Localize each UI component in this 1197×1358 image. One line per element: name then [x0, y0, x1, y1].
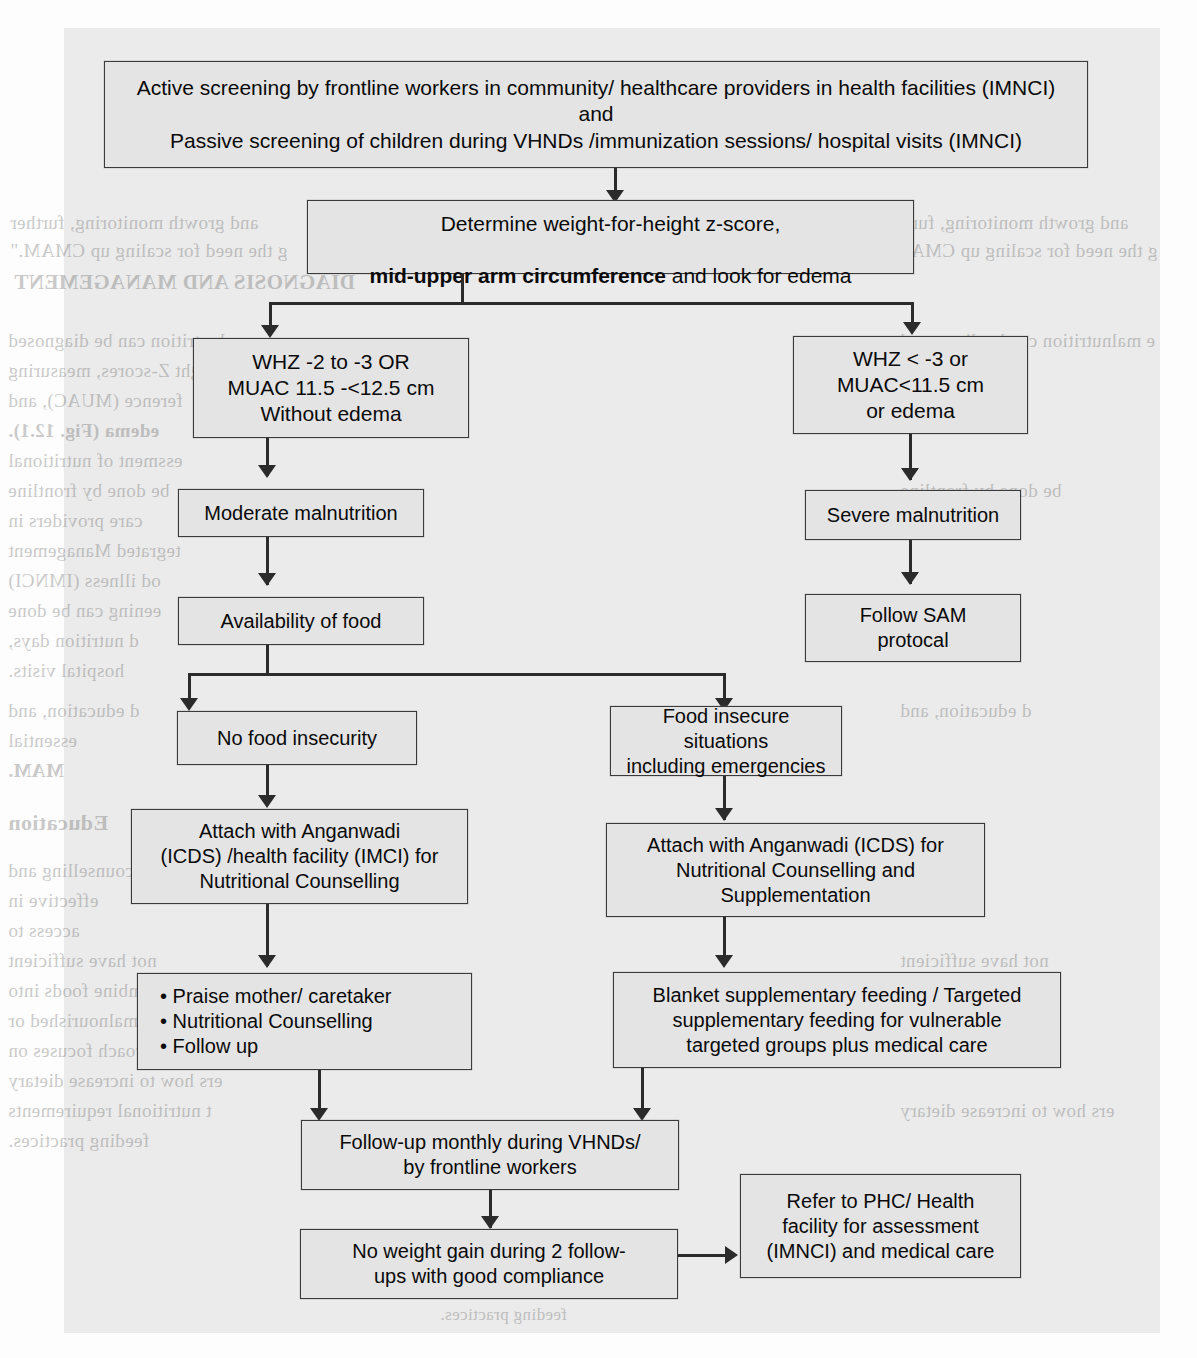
node-text: Severe malnutrition — [814, 503, 1012, 528]
node-availability-of-food[interactable]: Availability of food — [178, 597, 424, 645]
arrowhead-down-icon — [481, 1216, 499, 1229]
arrowhead-down-icon — [901, 572, 919, 585]
node-text: WHZ -2 to -3 OR MUAC 11.5 -<12.5 cm With… — [202, 349, 460, 428]
node-text: WHZ < -3 or MUAC<11.5 cm or edema — [802, 346, 1019, 425]
connector-determine-split — [269, 302, 914, 305]
connector-availability-split — [188, 673, 726, 676]
arrowhead-down-icon — [258, 795, 276, 808]
arrowhead-down-icon — [261, 325, 279, 338]
node-no-weight-gain[interactable]: No weight gain during 2 follow- ups with… — [300, 1229, 678, 1299]
node-active-passive-screening[interactable]: Active screening by frontline workers in… — [104, 61, 1088, 168]
arrowhead-down-icon — [258, 573, 276, 586]
node-text: Blanket supplementary feeding / Targeted… — [622, 983, 1052, 1058]
determine-bold-term: mid-upper arm circumference — [369, 264, 665, 287]
node-counselling-actions[interactable]: • Praise mother/ caretaker • Nutritional… — [137, 973, 472, 1070]
node-blanket-supplementary-feeding[interactable]: Blanket supplementary feeding / Targeted… — [613, 972, 1061, 1068]
node-text: Follow SAM protocal — [814, 603, 1012, 653]
node-text: Attach with Anganwadi (ICDS) /health fac… — [140, 819, 459, 894]
arrowhead-down-icon — [903, 322, 921, 335]
arrowhead-down-icon — [901, 468, 919, 481]
node-moderate-criteria[interactable]: WHZ -2 to -3 OR MUAC 11.5 -<12.5 cm With… — [193, 338, 469, 438]
node-refer-to-phc[interactable]: Refer to PHC/ Health facility for assess… — [740, 1174, 1021, 1278]
node-text: No food insecurity — [186, 726, 408, 751]
determine-line-1: Determine weight-for-height z-score, — [441, 212, 781, 235]
arrowhead-right-icon — [725, 1246, 738, 1264]
node-severe-malnutrition[interactable]: Severe malnutrition — [805, 490, 1021, 540]
node-text: Refer to PHC/ Health facility for assess… — [749, 1189, 1012, 1264]
flowchart: Active screening by frontline workers in… — [0, 0, 1197, 1358]
connector-determine-stem — [461, 274, 464, 304]
arrowhead-down-icon — [258, 465, 276, 478]
node-text: Follow-up monthly during VHNDs/ by front… — [310, 1130, 670, 1180]
node-text: No weight gain during 2 follow- ups with… — [309, 1239, 669, 1289]
node-text: Attach with Anganwadi (ICDS) for Nutriti… — [615, 833, 976, 908]
arrowhead-down-icon — [715, 955, 733, 968]
node-follow-sam-protocol[interactable]: Follow SAM protocal — [805, 594, 1021, 662]
arrowhead-down-icon — [180, 698, 198, 711]
scanned-page: and growth monitoring, further g the nee… — [0, 0, 1197, 1358]
arrowhead-down-icon — [258, 955, 276, 968]
node-attach-anganwadi-counselling[interactable]: Attach with Anganwadi (ICDS) /health fac… — [131, 809, 468, 904]
node-determine-assessment[interactable]: Determine weight-for-height z-score, mid… — [307, 200, 914, 274]
node-text: Food insecure situations including emerg… — [619, 704, 833, 779]
node-text: Availability of food — [187, 609, 415, 634]
determine-line-2-rest: and look for edema — [666, 264, 852, 287]
node-moderate-malnutrition[interactable]: Moderate malnutrition — [178, 489, 424, 537]
node-text: Active screening by frontline workers in… — [113, 75, 1079, 154]
node-follow-up-monthly[interactable]: Follow-up monthly during VHNDs/ by front… — [301, 1120, 679, 1190]
node-text: • Praise mother/ caretaker • Nutritional… — [146, 984, 463, 1059]
arrowhead-down-icon — [715, 808, 733, 821]
connector-availability-stem — [266, 645, 269, 675]
node-no-food-insecurity[interactable]: No food insecurity — [177, 711, 417, 765]
node-severe-criteria[interactable]: WHZ < -3 or MUAC<11.5 cm or edema — [793, 336, 1028, 434]
node-text: Moderate malnutrition — [187, 501, 415, 526]
node-attach-anganwadi-supplementation[interactable]: Attach with Anganwadi (ICDS) for Nutriti… — [606, 823, 985, 917]
node-food-insecure-situations[interactable]: Food insecure situations including emerg… — [610, 706, 842, 776]
